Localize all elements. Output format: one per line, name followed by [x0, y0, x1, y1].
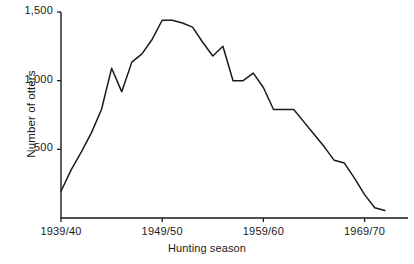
y-tick-label-1000: 1,000: [7, 73, 53, 85]
y-axis-title: Number of otters: [25, 29, 37, 199]
chart-axes: [61, 12, 408, 218]
x-tick-label-1949: 1949/50: [127, 225, 197, 237]
x-tick-label-1959: 1959/60: [228, 225, 298, 237]
otter-count-series-line: [61, 20, 385, 210]
otter-hunting-line-chart: Number of otters Hunting season 1,5001,0…: [0, 0, 414, 264]
x-tick-label-1939: 1939/40: [26, 225, 96, 237]
x-axis-title: Hunting season: [0, 242, 414, 254]
x-tick-label-1969: 1969/70: [330, 225, 400, 237]
y-tick-label-1500: 1,500: [7, 4, 53, 16]
y-tick-label-500: 500: [7, 141, 53, 153]
